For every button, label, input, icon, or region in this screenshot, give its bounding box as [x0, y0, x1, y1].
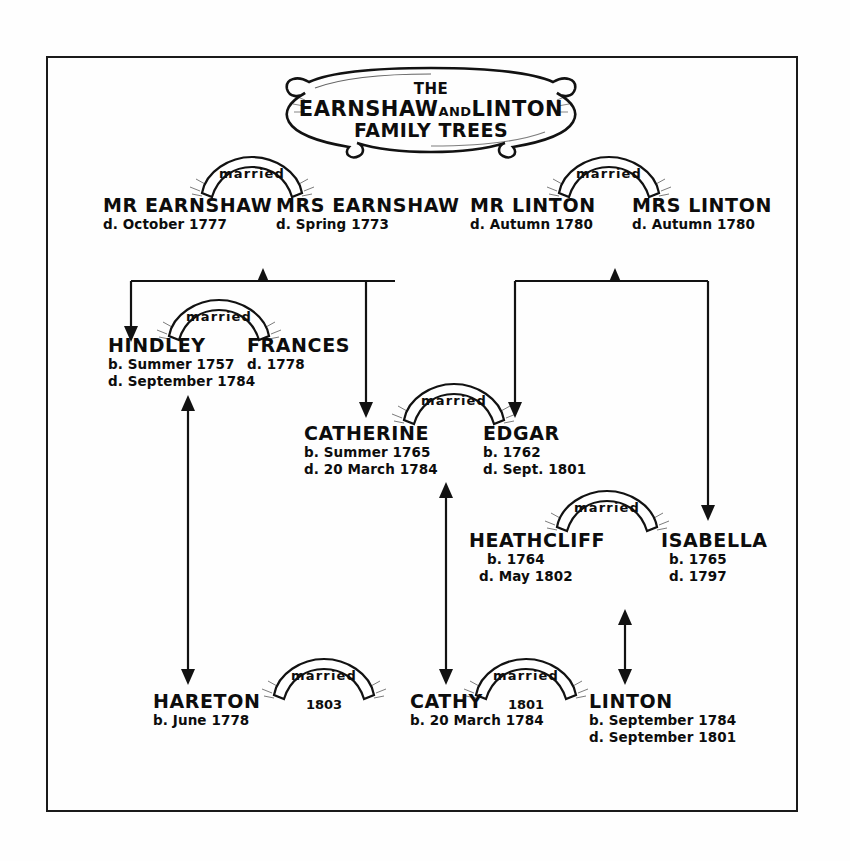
- person-name: ISABELLA: [661, 531, 768, 551]
- person-name: HINDLEY: [108, 336, 255, 356]
- person-mrs-earnshaw: MRS EARNSHAW d. Spring 1773: [276, 196, 460, 233]
- title-line-3: FAMILY TREES: [354, 120, 508, 140]
- person-hareton: HARETON b. June 1778: [153, 692, 260, 729]
- married-label: married: [219, 166, 285, 181]
- person-date: b. 1765: [661, 551, 768, 569]
- person-name: LINTON: [589, 692, 736, 712]
- person-mr-earnshaw: MR EARNSHAW d. October 1777: [103, 196, 272, 233]
- person-date: d. October 1777: [103, 216, 272, 234]
- person-date: d. 1778: [247, 356, 350, 374]
- person-name: CATHERINE: [304, 424, 438, 444]
- married-ribbon-catherine-edgar: married: [398, 380, 510, 426]
- drawing-sheet: THE EARNSHAWANDLINTON FAMILY TREES: [0, 0, 850, 861]
- married-ribbon-heathcliff-isabella: married: [551, 487, 663, 533]
- person-mr-linton: MR LINTON d. Autumn 1780: [470, 196, 596, 233]
- person-heathcliff: HEATHCLIFF b. 1764 d. May 1802: [469, 531, 605, 586]
- person-name: CATHY: [410, 692, 544, 712]
- married-label: married: [421, 393, 487, 408]
- married-ribbon-hareton-cathy: married: [268, 655, 380, 701]
- title-earnshaw: EARNSHAW: [299, 97, 439, 121]
- married-label: married: [291, 668, 357, 683]
- person-date: b. Summer 1757: [108, 356, 255, 374]
- person-edgar: EDGAR b. 1762 d. Sept. 1801: [483, 424, 586, 479]
- person-date: d. Autumn 1780: [470, 216, 596, 234]
- person-name: EDGAR: [483, 424, 586, 444]
- title-linton: LINTON: [472, 97, 564, 121]
- married-ribbon-earnshaw: married: [196, 153, 308, 199]
- person-date: d. Spring 1773: [276, 216, 460, 234]
- person-date: b. 1762: [483, 444, 586, 462]
- title-text: THE EARNSHAWANDLINTON FAMILY TREES: [281, 62, 581, 160]
- title-line-2: EARNSHAWANDLINTON: [299, 98, 563, 120]
- title-and: AND: [438, 104, 471, 119]
- married-label: married: [574, 500, 640, 515]
- married-label: married: [576, 166, 642, 181]
- married-ribbon-linton: married: [553, 153, 665, 199]
- person-date: b. 1764: [469, 551, 605, 569]
- person-name: MR LINTON: [470, 196, 596, 216]
- person-name: MRS LINTON: [632, 196, 772, 216]
- person-date: b. Summer 1765: [304, 444, 438, 462]
- person-date: d. September 1801: [589, 729, 736, 747]
- person-catherine: CATHERINE b. Summer 1765 d. 20 March 178…: [304, 424, 438, 479]
- person-mrs-linton: MRS LINTON d. Autumn 1780: [632, 196, 772, 233]
- marriage-year-hareton-cathy: 1803: [268, 697, 380, 712]
- person-hindley: HINDLEY b. Summer 1757 d. September 1784: [108, 336, 255, 391]
- person-name: HEATHCLIFF: [469, 531, 605, 551]
- person-date: b. 20 March 1784: [410, 712, 544, 730]
- married-label: married: [186, 309, 252, 324]
- person-linton: LINTON b. September 1784 d. September 18…: [589, 692, 736, 747]
- person-name: MRS EARNSHAW: [276, 196, 460, 216]
- person-date: b. June 1778: [153, 712, 260, 730]
- person-name: FRANCES: [247, 336, 350, 356]
- person-date: d. Sept. 1801: [483, 461, 586, 479]
- person-date: d. 1797: [661, 568, 768, 586]
- person-date: d. May 1802: [469, 568, 605, 586]
- person-frances: FRANCES d. 1778: [247, 336, 350, 373]
- married-label: married: [493, 668, 559, 683]
- person-date: d. 20 March 1784: [304, 461, 438, 479]
- person-name: HARETON: [153, 692, 260, 712]
- title-line-1: THE: [414, 82, 449, 98]
- person-date: d. Autumn 1780: [632, 216, 772, 234]
- person-date: d. September 1784: [108, 373, 255, 391]
- person-name: MR EARNSHAW: [103, 196, 272, 216]
- person-isabella: ISABELLA b. 1765 d. 1797: [661, 531, 768, 586]
- person-cathy: CATHY b. 20 March 1784: [410, 692, 544, 729]
- person-date: b. September 1784: [589, 712, 736, 730]
- title-cartouche: THE EARNSHAWANDLINTON FAMILY TREES: [281, 62, 581, 160]
